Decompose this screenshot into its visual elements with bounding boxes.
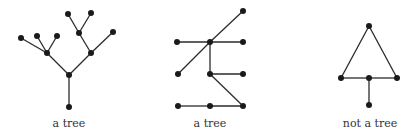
graph-vertex [240,71,246,77]
graph-vertex [338,75,344,81]
graph-edge [369,26,397,78]
graph-vertex [54,33,60,39]
not-tree-figure [338,23,400,108]
graph-vertex [175,103,181,109]
caption-tree-1: a tree [53,117,86,130]
caption-tree-2: a tree [194,117,227,130]
graph-vertex [366,102,372,108]
graph-edge [68,14,79,33]
graph-edge [79,33,91,53]
graph-vertex [44,50,50,56]
graph-vertex [366,23,372,29]
graph-vertex [240,103,246,109]
graph-vertex [88,50,94,56]
graph-vertex [394,75,400,81]
graph-vertex [76,30,82,36]
graph-edge [178,42,210,74]
tree-figure-1 [18,10,116,110]
graph-vertex [207,71,213,77]
graph-edge [69,53,91,75]
graph-vertex [240,39,246,45]
graph-vertex [240,8,246,14]
caption-not-a-tree: not a tree [343,117,397,130]
graph-vertex [34,33,40,39]
graph-edge [341,26,369,78]
graph-edge [79,13,91,33]
graph-vertex [207,103,213,109]
graph-vertex [66,104,72,110]
graph-vertex [174,39,180,45]
tree-diagrams [0,0,416,134]
graph-vertex [110,29,116,35]
graph-vertex [18,35,24,41]
graph-vertex [175,71,181,77]
graph-vertex [88,10,94,16]
graph-vertex [66,72,72,78]
graph-vertex [366,75,372,81]
graph-vertex [207,39,213,45]
graph-edge [47,53,69,75]
graph-edge [210,11,243,42]
graph-edge [91,32,113,53]
tree-figure-2 [174,8,246,109]
graph-edge [210,74,243,106]
graph-vertex [65,11,71,17]
